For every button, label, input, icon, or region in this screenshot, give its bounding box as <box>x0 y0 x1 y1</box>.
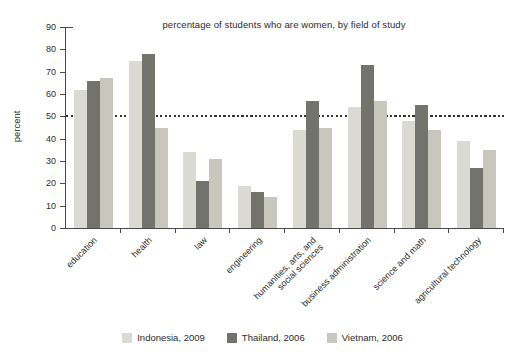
legend-label: Vietnam, 2006 <box>342 332 403 343</box>
legend-item: Indonesia, 2009 <box>122 332 205 343</box>
y-tick <box>60 206 65 207</box>
y-axis-label: percent <box>11 97 22 157</box>
legend-swatch <box>327 333 337 343</box>
bar <box>251 192 264 228</box>
y-tick <box>60 72 65 73</box>
bar <box>264 197 277 228</box>
y-tick-label: 40 <box>34 134 56 144</box>
bar <box>293 130 306 228</box>
x-category-label: science and math <box>329 235 428 334</box>
x-tick <box>503 229 504 233</box>
y-tick <box>60 27 65 28</box>
bar <box>374 101 387 228</box>
bar <box>306 101 319 228</box>
x-tick <box>448 229 449 233</box>
y-tick <box>60 116 65 117</box>
legend: Indonesia, 2009Thailand, 2006Vietnam, 20… <box>0 332 525 343</box>
x-tick <box>120 229 121 233</box>
bar <box>142 54 155 228</box>
bar-group <box>230 27 285 228</box>
bar <box>183 152 196 228</box>
legend-label: Indonesia, 2009 <box>137 332 205 343</box>
bar <box>196 181 209 228</box>
bar <box>209 159 222 228</box>
bar-group <box>176 27 231 228</box>
bar-group <box>395 27 450 228</box>
y-tick-label: 30 <box>34 156 56 166</box>
bar-groups <box>66 27 504 228</box>
bar <box>155 128 168 229</box>
x-tick <box>339 229 340 233</box>
legend-swatch <box>227 333 237 343</box>
y-tick <box>60 94 65 95</box>
y-tick-label: 70 <box>34 67 56 77</box>
y-tick-label: 50 <box>34 111 56 121</box>
bar <box>348 107 361 228</box>
x-category-label: humanities, arts, andsocial sciences <box>219 235 325 341</box>
y-tick <box>60 183 65 184</box>
bar-group <box>285 27 340 228</box>
figure: percentage of students who are women, by… <box>0 0 525 363</box>
legend-label: Thailand, 2006 <box>242 332 305 343</box>
x-tick <box>175 229 176 233</box>
x-category-label: education <box>0 235 99 334</box>
bar <box>457 141 470 228</box>
x-tick <box>394 229 395 233</box>
bar <box>87 81 100 228</box>
y-tick-label: 0 <box>34 223 56 233</box>
y-tick-label: 80 <box>34 44 56 54</box>
plot-area <box>65 27 504 229</box>
y-tick <box>60 49 65 50</box>
y-tick <box>60 161 65 162</box>
y-tick-label: 10 <box>34 201 56 211</box>
axis-corner-tick <box>66 27 73 28</box>
bar <box>415 105 428 228</box>
bar-group <box>449 27 504 228</box>
bar-group <box>121 27 176 228</box>
legend-item: Vietnam, 2006 <box>327 332 403 343</box>
y-tick-label: 90 <box>34 22 56 32</box>
bar-group <box>66 27 121 228</box>
x-tick <box>284 229 285 233</box>
bar <box>483 150 496 228</box>
x-category-label: law <box>110 235 209 334</box>
legend-item: Thailand, 2006 <box>227 332 305 343</box>
legend-swatch <box>122 333 132 343</box>
x-category-label: health <box>55 235 154 334</box>
bar-group <box>340 27 395 228</box>
bar <box>470 168 483 228</box>
bar <box>238 186 251 228</box>
bar <box>402 121 415 228</box>
bar <box>361 65 374 228</box>
y-tick <box>60 228 65 229</box>
y-tick-label: 20 <box>34 178 56 188</box>
bar <box>100 78 113 228</box>
x-category-label: agricultural technology <box>384 235 483 334</box>
bar <box>319 128 332 229</box>
x-tick <box>229 229 230 233</box>
bar <box>74 90 87 229</box>
y-tick-label: 60 <box>34 89 56 99</box>
bar <box>129 61 142 229</box>
bar <box>428 130 441 228</box>
y-tick <box>60 139 65 140</box>
